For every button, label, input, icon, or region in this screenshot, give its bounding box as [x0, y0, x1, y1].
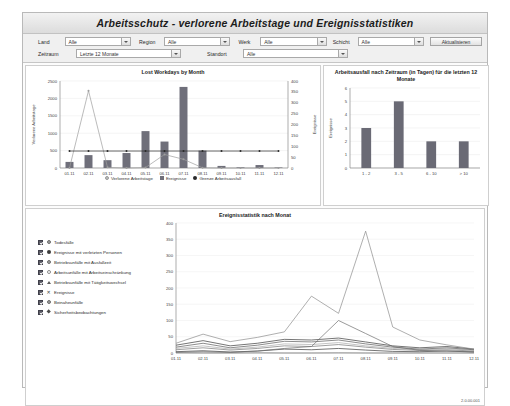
chevron-down-icon[interactable] — [171, 50, 180, 57]
svg-text:02.11: 02.11 — [198, 356, 209, 361]
filter-select-zeitraum[interactable]: Letzte 12 Monate — [76, 49, 181, 58]
svg-text:50: 50 — [291, 154, 296, 159]
chart-title-lost-workdays: Lost Workdays by Month — [26, 66, 320, 76]
svg-text:300: 300 — [291, 100, 299, 105]
filter-value-zeitraum: Letzte 12 Monate — [77, 51, 119, 57]
svg-text:0: 0 — [171, 350, 174, 355]
svg-text:12.11: 12.11 — [469, 356, 480, 361]
svg-text:3 - 5: 3 - 5 — [395, 171, 404, 176]
panel-ereignisstatistik: Ereignisstatistik nach Monat TodesfälleE… — [25, 208, 485, 406]
svg-text:500: 500 — [50, 148, 58, 153]
filter-value-land: Alle — [66, 39, 77, 45]
filter-bar: Land Alle Region Alle Werk Alle Schicht … — [23, 34, 487, 63]
svg-text:200: 200 — [291, 122, 299, 127]
svg-text:200: 200 — [166, 285, 174, 290]
svg-text:2500: 2500 — [48, 78, 58, 83]
top-charts-row: Lost Workdays by Month 05001000150020002… — [23, 63, 487, 208]
dashboard-window: Arbeitsschutz - verlorene Arbeitstage un… — [22, 12, 488, 388]
chevron-down-icon[interactable] — [220, 38, 229, 45]
panel-lost-workdays: Lost Workdays by Month 05001000150020002… — [25, 65, 321, 206]
chevron-down-icon[interactable] — [317, 38, 326, 45]
legend-swatch-icon — [160, 176, 164, 180]
svg-text:1000: 1000 — [48, 130, 58, 135]
svg-text:10.11: 10.11 — [415, 356, 426, 361]
chart-legend[interactable]: Verlorene ArbeitstageEreignisseGrenze Ar… — [26, 176, 320, 181]
legend-label: Verlorene Arbeitstage — [111, 176, 153, 181]
svg-text:3: 3 — [345, 126, 348, 131]
svg-text:400: 400 — [291, 78, 299, 83]
filter-select-region[interactable]: Alle — [164, 37, 230, 46]
svg-text:6: 6 — [345, 86, 348, 91]
svg-text:05.11: 05.11 — [279, 356, 290, 361]
svg-text:150: 150 — [166, 301, 174, 306]
filter-label-land: Land — [28, 39, 61, 45]
filter-value-region: Alle — [165, 39, 176, 45]
svg-text:50: 50 — [168, 334, 173, 339]
filter-select-werk[interactable]: Alle — [260, 37, 326, 46]
svg-text:07.11: 07.11 — [333, 356, 344, 361]
legend-swatch-icon — [193, 176, 197, 180]
filter-value-werk: Alle — [261, 39, 272, 45]
svg-text:04.11: 04.11 — [252, 356, 263, 361]
filter-value-schicht: Alle — [359, 39, 370, 45]
legend-label: Ereignisse — [166, 176, 187, 181]
filter-value-standort: Alle — [244, 51, 255, 57]
chevron-down-icon[interactable] — [338, 50, 347, 57]
chart-title-ereignisstatistik: Ereignisstatistik nach Monat — [26, 209, 484, 219]
chevron-down-icon[interactable] — [121, 38, 130, 45]
svg-text:1500: 1500 — [48, 113, 58, 118]
svg-text:1: 1 — [345, 152, 348, 157]
svg-text:0: 0 — [345, 166, 348, 171]
svg-text:Verlorene Arbeitstage: Verlorene Arbeitstage — [31, 103, 36, 144]
svg-text:01.11: 01.11 — [171, 356, 182, 361]
chart-title-ausfall-zeitraum: Arbeitsausfall nach Zeitraum (in Tagen) … — [324, 66, 488, 82]
svg-text:4: 4 — [345, 112, 348, 117]
svg-text:5: 5 — [345, 99, 348, 104]
svg-text:08.11: 08.11 — [361, 356, 372, 361]
filter-row-2: Zeitraum Letzte 12 Monate Standort Alle — [28, 49, 482, 58]
filter-label-region: Region — [131, 39, 160, 45]
refresh-button[interactable]: Aktualisieren — [430, 37, 482, 46]
svg-text:Ereignisse: Ereignisse — [312, 114, 317, 134]
svg-text:0: 0 — [55, 165, 58, 170]
svg-text:100: 100 — [291, 143, 299, 148]
panel-ausfall-zeitraum: Arbeitsausfall nach Zeitraum (in Tagen) … — [323, 65, 489, 206]
legend-item[interactable]: Ereignisse — [160, 176, 187, 181]
svg-text:350: 350 — [291, 89, 299, 94]
svg-text:1 - 2: 1 - 2 — [362, 171, 371, 176]
page-title: Arbeitsschutz - verlorene Arbeitstage un… — [97, 17, 414, 29]
svg-text:03.11: 03.11 — [225, 356, 236, 361]
filter-select-standort[interactable]: Alle — [243, 49, 348, 58]
svg-text:2000: 2000 — [48, 96, 58, 101]
filter-select-land[interactable]: Alle — [65, 37, 131, 46]
legend-swatch-icon — [105, 176, 109, 180]
svg-text:06.11: 06.11 — [306, 356, 317, 361]
svg-text:09.11: 09.11 — [388, 356, 399, 361]
svg-text:250: 250 — [291, 111, 299, 116]
svg-text:300: 300 — [166, 253, 174, 258]
svg-text:250: 250 — [166, 269, 174, 274]
legend-label: Grenze Arbeitsausfall — [199, 176, 241, 181]
chart-ausfall-zeitraum[interactable]: 01234561 - 23 - 56 - 10> 10Ereignisse — [324, 82, 488, 192]
legend-item[interactable]: Grenze Arbeitsausfall — [193, 176, 241, 181]
legend-item[interactable]: Verlorene Arbeitstage — [105, 176, 153, 181]
svg-text:11.11: 11.11 — [442, 356, 453, 361]
filter-label-zeitraum: Zeitraum — [28, 51, 72, 57]
title-bar: Arbeitsschutz - verlorene Arbeitstage un… — [23, 13, 487, 34]
chart-lost-workdays[interactable]: 0500100015002000250005010015020025030035… — [26, 76, 320, 194]
svg-text:100: 100 — [166, 318, 174, 323]
filter-select-schicht[interactable]: Alle — [358, 37, 424, 46]
svg-text:Ereignisse: Ereignisse — [328, 118, 333, 138]
chart-ereignisstatistik[interactable]: 05010015020025030035040001.1102.1103.110… — [26, 219, 484, 379]
filter-row-1: Land Alle Region Alle Werk Alle Schicht … — [28, 37, 482, 46]
filter-label-schicht: Schicht — [327, 39, 354, 45]
svg-text:6 - 10: 6 - 10 — [426, 171, 437, 176]
svg-text:> 10: > 10 — [460, 171, 469, 176]
svg-text:150: 150 — [291, 132, 299, 137]
svg-text:350: 350 — [166, 236, 174, 241]
filter-label-standort: Standort — [181, 51, 239, 57]
svg-text:0: 0 — [291, 165, 294, 170]
filter-label-werk: Werk — [230, 39, 256, 45]
svg-text:2: 2 — [345, 139, 348, 144]
chevron-down-icon[interactable] — [414, 38, 423, 45]
